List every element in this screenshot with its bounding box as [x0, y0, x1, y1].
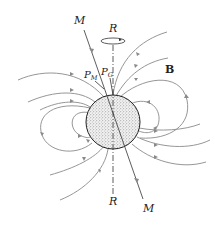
magnetic-axis-label-top: M: [73, 14, 86, 27]
magnetic-pole-label: PM: [83, 69, 98, 82]
rotation-axis-label-top: R: [108, 22, 117, 35]
field-label: B: [165, 63, 174, 76]
earth-magnetic-field-diagram: M R B PM PG R M: [0, 0, 215, 228]
geographic-pole-label: PG: [100, 66, 113, 79]
magnetic-pole-pointer: [95, 81, 104, 89]
magnetic-axis-label-bottom: M: [142, 202, 155, 215]
geographic-pole-pointer: [110, 78, 113, 95]
rotation-axis-label-bottom: R: [108, 195, 117, 208]
rotation-icon: [101, 38, 125, 44]
magnetic-axis-arrow-bottom: [134, 178, 139, 183]
